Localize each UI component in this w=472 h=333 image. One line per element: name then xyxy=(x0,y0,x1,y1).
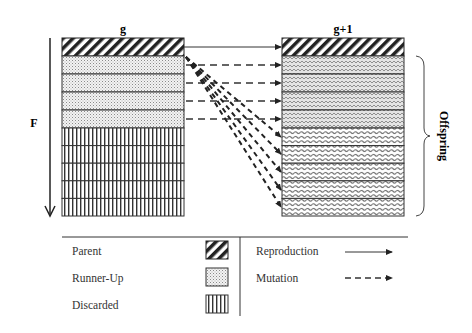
g-discarded-row xyxy=(62,198,184,216)
g-parent-row xyxy=(62,38,184,56)
fitness-axis-label: F xyxy=(30,116,37,130)
legend-label-runner-up: Runner-Up xyxy=(72,272,124,285)
g1-mutated-row xyxy=(282,110,404,128)
g-discarded-row xyxy=(62,163,184,181)
legend-label-mutation: Mutation xyxy=(256,272,298,284)
mutation-arrow xyxy=(186,57,281,154)
g-discarded-row xyxy=(62,146,184,164)
g1-offspring-row xyxy=(282,198,404,216)
legend-label-parent: Parent xyxy=(72,245,102,257)
g-runner-up-row xyxy=(62,56,184,74)
mutation-arrow xyxy=(186,57,281,207)
legend-swatch-parent xyxy=(206,241,228,259)
g1-mutated-row xyxy=(282,74,404,92)
g-runner-up-row xyxy=(62,110,184,128)
g1-offspring-row xyxy=(282,146,404,164)
generation-g-plus-1-label: g+1 xyxy=(334,22,353,36)
g-runner-up-row xyxy=(62,92,184,110)
g1-offspring-row xyxy=(282,181,404,199)
g1-mutated-row xyxy=(282,92,404,110)
legend-swatch-runner-up xyxy=(206,268,228,286)
offspring-brace xyxy=(416,56,430,216)
g1-offspring-row xyxy=(282,163,404,181)
g1-parent-row xyxy=(282,38,404,56)
mutation-arrow xyxy=(186,57,281,190)
legend-swatch-discarded xyxy=(206,295,228,313)
g1-offspring-row xyxy=(282,128,404,146)
generation-g-plus-1-column xyxy=(282,38,404,216)
g1-mutated-row xyxy=(282,56,404,74)
legend-label-discarded: Discarded xyxy=(72,299,119,311)
mutation-arrows-diagonal xyxy=(186,57,281,207)
g-discarded-row xyxy=(62,181,184,199)
diagram-canvas: g g+1 F Offspring Parent Runner-Up Disca… xyxy=(0,0,472,333)
offspring-label: Offspring xyxy=(437,111,451,161)
mutation-arrow xyxy=(186,57,281,172)
legend-label-reproduction: Reproduction xyxy=(256,245,319,258)
g-discarded-row xyxy=(62,128,184,146)
generation-g-column xyxy=(62,38,184,216)
generation-g-label: g xyxy=(120,22,126,36)
g-runner-up-row xyxy=(62,74,184,92)
